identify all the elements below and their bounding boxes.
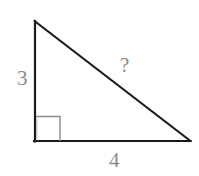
vertical-leg-label: 3 xyxy=(17,68,28,89)
right-angle-marker-icon xyxy=(36,117,60,142)
horizontal-leg-label: 4 xyxy=(109,150,120,171)
hypotenuse-line xyxy=(35,21,191,141)
hypotenuse-label: ? xyxy=(120,55,129,76)
right-triangle-figure: 3 ? 4 xyxy=(0,0,199,176)
triangle-drawing xyxy=(0,0,199,176)
